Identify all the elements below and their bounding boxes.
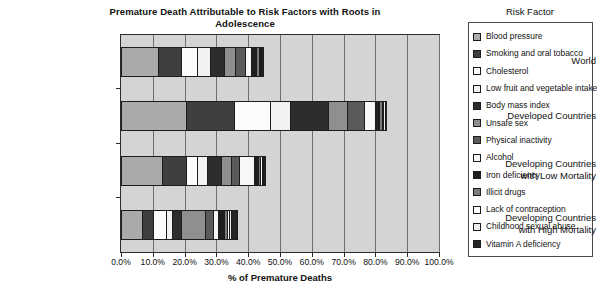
x-axis-tick-label: 0.0%	[104, 257, 138, 267]
stacked-bar[interactable]	[121, 101, 387, 131]
bar-segment[interactable]	[122, 48, 159, 76]
bar-segment[interactable]	[122, 102, 187, 130]
bar-group	[121, 198, 439, 252]
bar-segment[interactable]	[182, 48, 198, 76]
legend-swatch-icon	[473, 136, 481, 144]
bar-segment[interactable]	[329, 102, 348, 130]
y-axis-label: World	[571, 55, 596, 67]
bar-segment[interactable]	[208, 157, 222, 185]
bar-segment[interactable]	[348, 102, 365, 130]
legend-label: Cholesterol	[486, 67, 528, 76]
bar-segment[interactable]	[187, 102, 235, 130]
bar-segment[interactable]	[365, 102, 376, 130]
bar-segment[interactable]	[232, 211, 237, 239]
bar-segment[interactable]	[198, 48, 211, 76]
bar-segment[interactable]	[163, 157, 187, 185]
bar-group	[121, 144, 439, 198]
legend-label: Low fruit and vegetable intake	[486, 84, 597, 93]
x-axis-tick-label: 20.0%	[168, 257, 202, 267]
y-axis-label: Developing Countrieswith High Mortality	[505, 212, 596, 235]
legend-item[interactable]: Illicit drugs	[473, 184, 592, 201]
legend-swatch-icon	[473, 206, 481, 214]
legend-label: Illicit drugs	[486, 188, 526, 197]
legend-swatch-icon	[473, 154, 481, 162]
bar-segment[interactable]	[236, 48, 246, 76]
stacked-bar[interactable]	[121, 210, 238, 240]
stacked-bar[interactable]	[121, 47, 264, 77]
stacked-bar[interactable]	[121, 156, 266, 186]
y-axis-tick	[116, 143, 120, 144]
legend-swatch-icon	[473, 50, 481, 58]
bar-segment[interactable]	[240, 157, 256, 185]
bar-segment[interactable]	[271, 102, 290, 130]
bar-segment[interactable]	[182, 211, 206, 239]
legend-item[interactable]: Blood pressure	[473, 28, 592, 45]
legend-swatch-icon	[473, 85, 481, 93]
legend-label: Smoking and oral tobacco	[486, 49, 583, 58]
bar-segment[interactable]	[122, 211, 143, 239]
legend-swatch-icon	[473, 67, 481, 75]
legend-item[interactable]: Vitamin A deficiency	[473, 236, 592, 253]
bar-segment[interactable]	[143, 211, 154, 239]
bar-group	[121, 89, 439, 143]
legend-label: Vitamin A deficiency	[486, 240, 560, 249]
y-axis-label: Developed Countries	[507, 110, 596, 122]
x-axis-tick-label: 80.0%	[358, 257, 392, 267]
bar-segment[interactable]	[206, 211, 214, 239]
x-axis-tick-label: 100.0%	[422, 257, 456, 267]
legend-item[interactable]: Physical inactivity	[473, 132, 592, 149]
x-axis-tick-label: 90.0%	[390, 257, 424, 267]
legend-swatch-icon	[473, 240, 481, 248]
bar-segment[interactable]	[232, 157, 240, 185]
y-axis-tick	[116, 88, 120, 89]
legend-swatch-icon	[473, 102, 481, 110]
x-axis-title: % of Premature Deaths	[120, 272, 440, 283]
plot-area	[120, 34, 440, 253]
bar-segment[interactable]	[198, 157, 208, 185]
bar-segment[interactable]	[154, 211, 167, 239]
legend-swatch-icon	[473, 119, 481, 127]
bar-segment[interactable]	[122, 157, 163, 185]
y-axis-tick	[116, 197, 120, 198]
x-axis-tick-label: 30.0%	[199, 257, 233, 267]
legend-swatch-icon	[473, 171, 481, 179]
legend-label: Blood pressure	[486, 32, 542, 41]
x-axis-tick-label: 70.0%	[327, 257, 361, 267]
gridline	[439, 35, 440, 252]
bar-segment[interactable]	[173, 211, 183, 239]
x-axis-tick-label: 60.0%	[295, 257, 329, 267]
bar-segment[interactable]	[225, 48, 236, 76]
legend-item[interactable]: Low fruit and vegetable intake	[473, 80, 592, 97]
bar-segment[interactable]	[262, 48, 263, 76]
bar-segment[interactable]	[291, 102, 329, 130]
x-axis-tick-label: 10.0%	[136, 257, 170, 267]
legend-label: Physical inactivity	[486, 136, 552, 145]
legend-title: Risk Factor	[470, 6, 590, 17]
bar-segment[interactable]	[159, 48, 183, 76]
chart-title: Premature Death Attributable to Risk Fac…	[80, 6, 410, 30]
y-axis-label: Developing Countrieswith Low Mortality	[505, 158, 596, 181]
bar-segment[interactable]	[222, 157, 232, 185]
bar-segment[interactable]	[187, 157, 198, 185]
bar-segment[interactable]	[264, 157, 265, 185]
x-axis-tick-label: 40.0%	[231, 257, 265, 267]
legend-swatch-icon	[473, 33, 481, 41]
x-axis-tick-label: 50.0%	[263, 257, 297, 267]
bar-segment[interactable]	[211, 48, 225, 76]
legend-swatch-icon	[473, 223, 481, 231]
legend-swatch-icon	[473, 188, 481, 196]
bar-group	[121, 35, 439, 89]
bar-segment[interactable]	[235, 102, 272, 130]
